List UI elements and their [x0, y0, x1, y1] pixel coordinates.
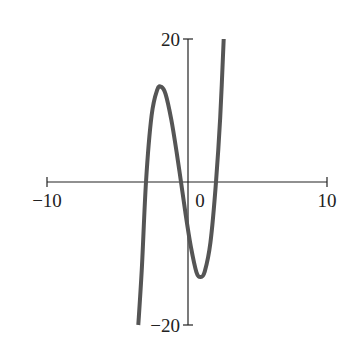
y-tick-label-min: −20	[150, 315, 180, 336]
axes	[47, 39, 327, 325]
y-tick-label-max: 20	[161, 29, 180, 50]
chart-canvas: −10 0 10 20 −20	[0, 0, 357, 350]
x-tick-label-zero: 0	[195, 190, 205, 211]
x-tick-label-max: 10	[318, 190, 337, 211]
x-tick-label-min: −10	[32, 190, 62, 211]
